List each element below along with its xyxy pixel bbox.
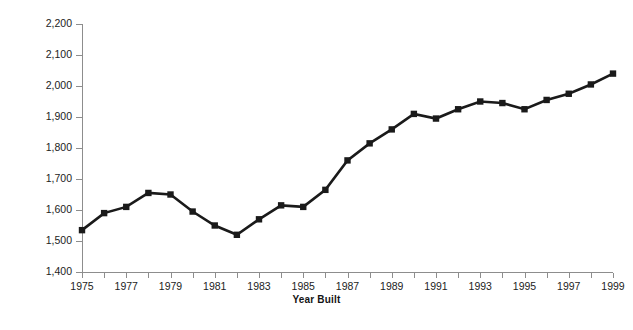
- x-axis-tick: [215, 273, 216, 278]
- data-point: [477, 98, 483, 104]
- x-axis-tick: [458, 273, 459, 278]
- x-axis-tick: [613, 273, 614, 278]
- series-line: [82, 74, 613, 235]
- x-axis-tick: [480, 273, 481, 278]
- x-axis-tick: [82, 273, 83, 278]
- series-markers: [79, 70, 616, 238]
- data-point: [300, 204, 306, 210]
- data-point: [123, 204, 129, 210]
- data-point: [455, 106, 461, 112]
- data-point: [167, 191, 173, 197]
- data-point: [366, 140, 372, 146]
- x-axis-tick: [414, 273, 415, 278]
- y-axis-line: [82, 24, 83, 273]
- x-axis-tick: [193, 273, 194, 278]
- data-point: [433, 115, 439, 121]
- y-axis-tick-label: 1,900: [2, 111, 72, 121]
- x-axis-tick: [436, 273, 437, 278]
- data-point: [389, 126, 395, 132]
- data-point: [499, 100, 505, 106]
- data-point: [344, 157, 350, 163]
- y-axis-tick-label: 2,100: [2, 49, 72, 59]
- data-point: [322, 187, 328, 193]
- data-point: [212, 222, 218, 228]
- data-point: [566, 91, 572, 97]
- data-point: [145, 190, 151, 196]
- x-axis-tick: [171, 273, 172, 278]
- x-axis-tick: [148, 273, 149, 278]
- x-axis-tick: [348, 273, 349, 278]
- x-axis-tick-label: 1999: [583, 280, 633, 292]
- data-point: [278, 202, 284, 208]
- data-point: [234, 232, 240, 238]
- y-axis-tick-label: 2,000: [2, 80, 72, 90]
- data-point: [256, 216, 262, 222]
- data-point: [610, 70, 616, 76]
- y-axis-tick-label: 2,200: [2, 18, 72, 28]
- y-axis-tick-label: 1,400: [2, 266, 72, 276]
- y-axis-tick-label: 1,600: [2, 204, 72, 214]
- x-axis-tick: [569, 273, 570, 278]
- x-axis-tick: [591, 273, 592, 278]
- data-point: [189, 208, 195, 214]
- x-axis-tick: [104, 273, 105, 278]
- data-point: [411, 111, 417, 117]
- x-axis-tick: [237, 273, 238, 278]
- x-axis-tick: [303, 273, 304, 278]
- x-axis-tick: [281, 273, 282, 278]
- x-axis-tick: [126, 273, 127, 278]
- x-axis-tick: [370, 273, 371, 278]
- data-point: [101, 210, 107, 216]
- x-axis-tick: [392, 273, 393, 278]
- y-axis-tick-label: 1,800: [2, 142, 72, 152]
- data-point: [588, 81, 594, 87]
- line-chart: Square Feet 1,4001,5001,6001,7001,8001,9…: [0, 0, 633, 330]
- data-point: [543, 97, 549, 103]
- x-axis-tick: [325, 273, 326, 278]
- x-axis-tick: [525, 273, 526, 278]
- x-axis-tick: [259, 273, 260, 278]
- y-axis-tick-label: 1,500: [2, 235, 72, 245]
- x-axis-tick: [502, 273, 503, 278]
- y-axis-tick-label: 1,700: [2, 173, 72, 183]
- data-point: [521, 106, 527, 112]
- x-axis-title: Year Built: [0, 294, 633, 305]
- x-axis-tick: [547, 273, 548, 278]
